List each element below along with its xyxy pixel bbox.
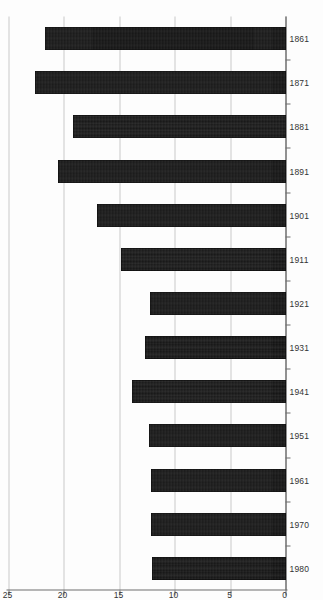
category-axis-label: 1891 bbox=[289, 166, 309, 176]
bar bbox=[97, 204, 285, 226]
bar bbox=[151, 469, 285, 491]
category-axis-tick bbox=[285, 324, 290, 325]
category-axis-tick bbox=[285, 545, 290, 546]
category-axis-label: 1980 bbox=[289, 563, 309, 573]
category-axis-tick bbox=[285, 147, 290, 148]
value-axis-label: 15 bbox=[113, 589, 122, 599]
value-axis-label: 10 bbox=[168, 589, 177, 599]
value-axis-label: 20 bbox=[58, 589, 67, 599]
category-axis-label: 1871 bbox=[289, 77, 309, 87]
bar bbox=[35, 71, 285, 93]
gridline bbox=[119, 16, 120, 590]
category-axis-label: 1881 bbox=[289, 121, 309, 131]
bar bbox=[45, 27, 285, 49]
category-axis-label: 1921 bbox=[289, 298, 309, 308]
bar bbox=[151, 513, 285, 535]
bar bbox=[132, 380, 285, 402]
category-axis-tick bbox=[285, 103, 290, 104]
gridline bbox=[8, 16, 9, 590]
value-axis-label: 5 bbox=[226, 589, 231, 599]
category-axis-label: 1911 bbox=[289, 254, 308, 264]
category-axis-label: 1861 bbox=[289, 33, 309, 43]
bar bbox=[152, 557, 285, 579]
category-axis-tick bbox=[285, 457, 290, 458]
bar bbox=[149, 424, 285, 446]
category-axis-line bbox=[6, 589, 287, 590]
value-axis-label: 25 bbox=[2, 589, 11, 599]
rotated-figure-wrapper: per 1000 people 051015202519801970196119… bbox=[0, 0, 323, 600]
category-axis-label: 1901 bbox=[289, 210, 309, 220]
category-axis-label: 1951 bbox=[289, 430, 309, 440]
category-axis-label: 1941 bbox=[289, 386, 309, 396]
category-axis-label: 1970 bbox=[289, 519, 309, 529]
category-axis-tick bbox=[285, 501, 290, 502]
category-axis-tick bbox=[285, 368, 290, 369]
category-axis-tick bbox=[285, 236, 290, 237]
category-axis-tick bbox=[285, 192, 290, 193]
gridline bbox=[63, 16, 64, 590]
chart-page: per 1000 people 051015202519801970196119… bbox=[0, 0, 323, 600]
bar-chart-figure: per 1000 people 051015202519801970196119… bbox=[0, 0, 323, 600]
category-axis-label: 1931 bbox=[289, 342, 309, 352]
bar bbox=[58, 160, 285, 182]
bar bbox=[150, 292, 285, 314]
category-axis-tick bbox=[285, 412, 290, 413]
bar bbox=[145, 336, 285, 358]
bar bbox=[73, 115, 285, 137]
value-axis-label: 0 bbox=[282, 589, 287, 599]
category-axis-tick bbox=[285, 280, 290, 281]
category-axis-tick bbox=[285, 59, 290, 60]
category-axis-label: 1961 bbox=[289, 475, 309, 485]
bar bbox=[121, 248, 285, 270]
